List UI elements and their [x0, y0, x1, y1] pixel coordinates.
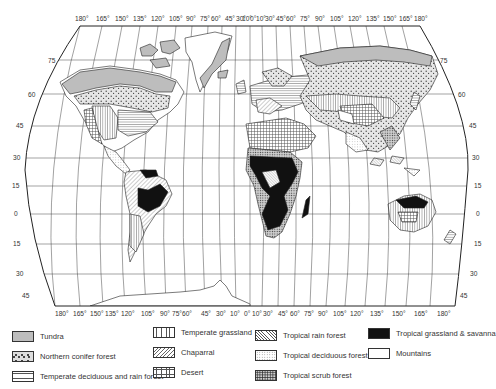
svg-text:60°: 60° — [290, 310, 300, 317]
legend-label: Temperate deciduous and rain forest — [40, 372, 163, 381]
svg-text:165°: 165° — [73, 310, 87, 317]
svg-text:180°: 180° — [75, 15, 89, 22]
svg-text:10°: 10° — [252, 310, 262, 317]
svg-text:105°: 105° — [169, 15, 183, 22]
svg-text:105°: 105° — [330, 15, 344, 22]
svg-text:75: 75 — [48, 57, 56, 64]
antarctica — [90, 280, 250, 306]
world-biome-map: 180° 165° 150° 135° 120° 105° 90° 75° 60… — [0, 0, 491, 320]
svg-text:0: 0 — [476, 210, 480, 217]
svg-text:0°: 0° — [244, 310, 251, 317]
svg-text:30°: 30° — [265, 15, 275, 22]
svg-text:45: 45 — [16, 122, 24, 129]
svg-text:45: 45 — [460, 292, 468, 299]
svg-text:90°: 90° — [315, 15, 325, 22]
svg-text:150°: 150° — [115, 15, 129, 22]
continents — [60, 32, 456, 306]
svg-text:120°: 120° — [350, 310, 364, 317]
top-longitude-labels: 180° 165° 150° 135° 120° 105° 90° 75° 60… — [75, 15, 428, 22]
svg-text:45: 45 — [469, 122, 477, 129]
legend-item-tropical-rain-forest: Tropical rain forest — [255, 329, 346, 341]
svg-text:105°: 105° — [333, 310, 347, 317]
svg-text:150°: 150° — [90, 310, 104, 317]
svg-text:60°: 60° — [211, 15, 221, 22]
svg-text:75°: 75° — [172, 310, 182, 317]
svg-text:135°: 135° — [133, 15, 147, 22]
svg-text:75°: 75° — [200, 15, 210, 22]
svg-text:90°: 90° — [186, 15, 196, 22]
desert-swatch — [153, 367, 175, 378]
svg-text:30°: 30° — [216, 310, 226, 317]
svg-text:150°: 150° — [392, 310, 406, 317]
svg-text:45°: 45° — [278, 310, 288, 317]
svg-text:180°: 180° — [414, 15, 428, 22]
legend-item-desert: Desert — [153, 366, 203, 378]
svg-text:30°: 30° — [263, 310, 273, 317]
legend-label: Mountains — [396, 349, 431, 358]
legend-item-tropical-grassland-savanna: Tropical grassland & savanna — [368, 327, 496, 339]
svg-text:165°: 165° — [96, 15, 110, 22]
legend-label: Tropical grassland & savanna — [396, 329, 496, 338]
svg-text:30: 30 — [470, 270, 478, 277]
svg-text:75°: 75° — [300, 15, 310, 22]
tundra-swatch — [12, 331, 34, 342]
svg-text:165°: 165° — [414, 310, 428, 317]
svg-text:60°: 60° — [286, 15, 296, 22]
legend-label: Northern conifer forest — [40, 352, 116, 361]
svg-text:0: 0 — [14, 210, 18, 217]
svg-text:90°: 90° — [160, 310, 170, 317]
svg-text:45°: 45° — [201, 310, 211, 317]
svg-text:120°: 120° — [151, 15, 165, 22]
svg-text:165°: 165° — [399, 15, 413, 22]
right-latitude-labels: 75 60 45 30 15 0 15 30 45 — [440, 57, 482, 299]
temperate-deciduous-swatch — [12, 371, 34, 382]
legend-label: Tropical deciduous forest — [283, 351, 368, 360]
legend-item-northern-conifer-forest: Northern conifer forest — [12, 350, 116, 362]
svg-text:15: 15 — [474, 182, 482, 189]
svg-text:15: 15 — [474, 240, 482, 247]
svg-text:30: 30 — [472, 154, 480, 161]
svg-text:90°: 90° — [318, 310, 328, 317]
mountains-swatch — [368, 348, 390, 359]
svg-text:135°: 135° — [105, 310, 119, 317]
legend-item-temperate-grassland: Temperate grassland — [153, 326, 252, 338]
svg-text:135°: 135° — [370, 310, 384, 317]
legend-item-tundra: Tundra — [12, 330, 64, 342]
left-latitude-labels: 75 60 45 30 15 0 15 30 45 — [12, 57, 56, 299]
svg-text:120°: 120° — [348, 15, 362, 22]
svg-text:30: 30 — [16, 270, 24, 277]
legend-label: Temperate grassland — [181, 328, 252, 337]
legend-item-temperate-deciduous: Temperate deciduous and rain forest — [12, 370, 163, 382]
svg-text:15: 15 — [12, 182, 20, 189]
savanna-swatch — [368, 328, 390, 339]
legend-label: Tundra — [40, 332, 64, 341]
legend-item-chaparral: Chaparral — [153, 346, 214, 358]
svg-text:180°: 180° — [437, 310, 451, 317]
legend-item-tropical-scrub-forest: Tropical scrub forest — [255, 369, 352, 381]
northern-conifer-swatch — [12, 351, 34, 362]
svg-text:150°: 150° — [383, 15, 397, 22]
svg-text:60°: 60° — [182, 310, 192, 317]
tropical-rain-forest-swatch — [255, 330, 277, 341]
legend-item-tropical-deciduous-forest: Tropical deciduous forest — [255, 349, 368, 361]
legend: Tundra Northern conifer forest Temperate… — [0, 330, 491, 389]
svg-text:135°: 135° — [366, 15, 380, 22]
tropical-deciduous-swatch — [255, 350, 277, 361]
svg-text:75: 75 — [440, 57, 448, 64]
legend-label: Chaparral — [181, 348, 214, 357]
svg-text:180°: 180° — [55, 310, 69, 317]
chaparral-swatch — [153, 347, 175, 358]
temperate-grassland-swatch — [153, 327, 175, 338]
svg-text:45: 45 — [22, 292, 30, 299]
svg-text:60: 60 — [28, 91, 36, 98]
legend-item-mountains: Mountains — [368, 347, 431, 359]
svg-text:60: 60 — [458, 91, 466, 98]
bottom-longitude-labels: 180° 165° 150° 135° 120° 105° 90° 75° 60… — [55, 310, 451, 317]
legend-label: Tropical scrub forest — [283, 371, 352, 380]
svg-text:45°: 45° — [225, 15, 235, 22]
svg-text:45°: 45° — [276, 15, 286, 22]
svg-text:105°: 105° — [141, 310, 155, 317]
svg-text:10°: 10° — [230, 310, 240, 317]
svg-text:15: 15 — [13, 240, 21, 247]
svg-text:30: 30 — [13, 154, 21, 161]
